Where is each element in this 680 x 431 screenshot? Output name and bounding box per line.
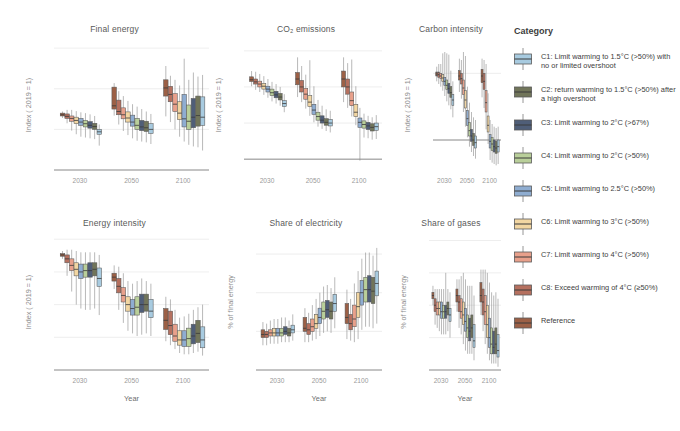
boxplot-C3 — [471, 112, 473, 152]
panel-title-co2-emissions: CO₂ emissions — [222, 24, 390, 34]
legend-swatch-reference-icon — [512, 310, 534, 336]
x-axis-label-share-of-gases: Year — [429, 394, 501, 403]
boxplot-C1 — [149, 114, 153, 144]
boxplot-C8 — [346, 63, 350, 108]
x-tick-label: 2050 — [124, 177, 139, 184]
boxplot-C6 — [262, 76, 266, 95]
boxplot-C6 — [308, 60, 312, 116]
boxplot-C7 — [269, 321, 273, 344]
boxplot-C5 — [276, 319, 280, 344]
boxplot-C7 — [258, 74, 262, 92]
legend-swatch-c8-icon — [512, 277, 534, 303]
boxplot-C7 — [121, 96, 125, 131]
boxplot-C8 — [65, 110, 69, 123]
boxplot-Reference — [112, 265, 116, 289]
boxplot-C3 — [139, 109, 143, 142]
boxplot-C3 — [191, 73, 195, 147]
boxplot-C1 — [97, 125, 101, 146]
x-tick-label: 2030 — [437, 177, 452, 184]
plot-area-share-of-electricity: 0255075203020502100 — [256, 234, 382, 370]
boxplot-C7 — [121, 273, 125, 323]
boxplot-Reference — [164, 66, 168, 116]
boxplot-C5 — [464, 279, 466, 350]
legend-items: C1: Limit warming to 1.5°C (>50%) with n… — [512, 46, 680, 336]
legend-item-c8[interactable]: C8: Exceed warming of 4°C (≥50%) — [512, 277, 680, 303]
legend: Category C1: Limit warming to 1.5°C (>50… — [512, 26, 680, 343]
boxplot-C3 — [469, 286, 471, 354]
boxplot-C7 — [311, 305, 315, 341]
boxplot-C6 — [126, 101, 130, 135]
boxplot-C8 — [460, 60, 462, 99]
plot-area-energy-intensity: 0.000.250.500.751.00203020502100 — [54, 234, 209, 370]
legend-item-c4[interactable]: C4: Limit warming to 2°C (>50%) — [512, 145, 680, 171]
legend-label: C6: Limit warming to 3°C (>50%) — [541, 211, 649, 226]
boxplot-Reference — [303, 308, 307, 342]
boxplot-C1 — [497, 299, 499, 367]
x-tick-label: 2050 — [124, 377, 139, 384]
boxplot-C6 — [74, 251, 78, 305]
boxplot-C4 — [446, 53, 448, 101]
x-tick-label: 2030 — [434, 377, 449, 384]
boxplot-C3 — [325, 285, 329, 331]
x-tick-label: 2050 — [306, 177, 321, 184]
legend-swatch-c4-icon — [512, 145, 534, 171]
x-tick-label: 2100 — [482, 377, 497, 384]
boxplot-C1 — [374, 115, 378, 139]
panel-title-carbon-intensity: Carbon intensity — [395, 24, 507, 34]
legend-title: Category — [514, 26, 680, 36]
panel-title-share-of-gases: Share of gases — [395, 218, 507, 228]
boxplot-C5 — [79, 112, 83, 136]
boxplot-C5 — [79, 252, 83, 308]
y-axis-label-energy-intensity: Index ( 2019 = 1) — [24, 234, 33, 370]
boxplot-C4 — [443, 289, 445, 334]
legend-item-c7[interactable]: C7: Limit warming to 4°C (>50%) — [512, 244, 680, 270]
boxplot-C7 — [69, 250, 73, 292]
boxplot-C4 — [135, 281, 139, 336]
legend-item-c2[interactable]: C2: return warming to 1.5°C (>50%) after… — [512, 79, 680, 105]
boxplot-C7 — [69, 110, 73, 131]
boxplot-C5 — [466, 87, 468, 138]
x-tick-label: 2050 — [312, 377, 327, 384]
boxplot-C1 — [97, 255, 101, 315]
boxplot-C7 — [460, 276, 462, 334]
boxplot-C6 — [438, 289, 440, 331]
legend-label: C7: Limit warming to 4°C (>50%) — [541, 244, 649, 259]
legend-item-c6[interactable]: C6: Limit warming to 3°C (>50%) — [512, 211, 680, 237]
boxplot-C3 — [367, 253, 371, 327]
boxplot-C1 — [497, 127, 499, 164]
boxplot-C5 — [318, 293, 322, 336]
boxplot-C2 — [144, 281, 148, 333]
panel-title-final-energy: Final energy — [12, 24, 217, 34]
legend-swatch-c3-icon — [512, 112, 534, 138]
boxplot-C4 — [187, 314, 191, 355]
boxplot-C4 — [83, 252, 87, 310]
legend-swatch-c2-icon — [512, 79, 534, 105]
boxplot-C4 — [364, 253, 368, 327]
boxplot-C2 — [473, 117, 475, 156]
boxplot-C8 — [168, 299, 172, 345]
legend-item-c5[interactable]: C5: Limit warming to 2.5°C (>50%) — [512, 178, 680, 204]
boxplot-C5 — [358, 108, 362, 161]
legend-item-c1[interactable]: C1: Limit warming to 1.5°C (>50%) with n… — [512, 46, 680, 72]
legend-item-c3[interactable]: C3: Limit warming to 2°C (>67%) — [512, 112, 680, 138]
boxplot-C4 — [83, 113, 87, 137]
boxplot-C5 — [488, 283, 490, 361]
boxplot-C1 — [452, 81, 454, 117]
boxplot-C2 — [495, 292, 497, 363]
boxplot-Reference — [436, 67, 438, 82]
boxplot-Reference — [456, 279, 458, 311]
legend-item-reference[interactable]: Reference — [512, 310, 680, 336]
x-tick-label: 2050 — [460, 177, 475, 184]
boxplot-C8 — [117, 91, 121, 124]
boxplot-C7 — [484, 270, 486, 344]
boxplot-C2 — [196, 307, 200, 351]
boxplot-C2 — [324, 109, 328, 131]
boxplot-C5 — [360, 259, 364, 330]
boxplot-C2 — [471, 286, 473, 354]
boxplot-C7 — [350, 60, 354, 117]
boxplot-C7 — [462, 52, 464, 112]
boxplot-C3 — [366, 116, 370, 138]
boxplot-C8 — [349, 299, 353, 341]
boxplot-C2 — [92, 252, 96, 308]
plot-area-final-energy: 0123203020502100 — [54, 40, 209, 170]
